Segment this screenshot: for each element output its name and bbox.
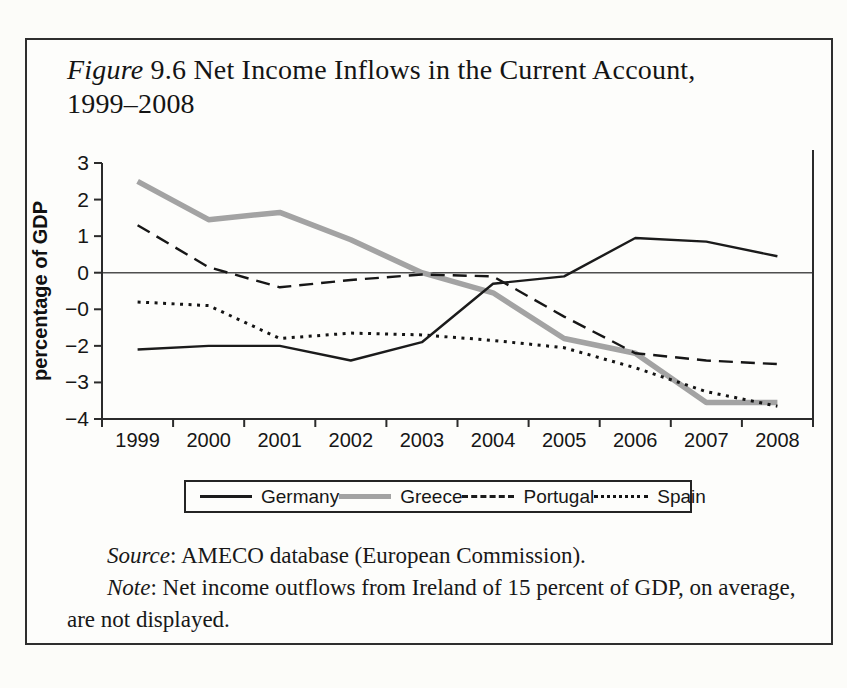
svg-text:−3: −3 [65, 370, 89, 393]
svg-text:−2: −2 [65, 334, 89, 357]
svg-text:−4: −4 [65, 407, 89, 430]
svg-text:2000: 2000 [186, 429, 231, 451]
svg-text:2008: 2008 [755, 429, 800, 451]
svg-text:2002: 2002 [329, 429, 374, 451]
svg-text:−0: −0 [65, 297, 89, 320]
svg-text:2001: 2001 [258, 429, 303, 451]
svg-text:1: 1 [77, 224, 89, 247]
chart-canvas: 3210−0−2−3−41999200020012002200320042005… [0, 0, 847, 688]
svg-text:2003: 2003 [400, 429, 445, 451]
svg-text:2005: 2005 [542, 429, 587, 451]
svg-text:0: 0 [77, 261, 89, 284]
svg-text:2004: 2004 [471, 429, 516, 451]
svg-text:percentage of GDP: percentage of GDP [29, 201, 51, 381]
svg-text:3: 3 [77, 151, 89, 174]
svg-text:2007: 2007 [684, 429, 729, 451]
svg-text:2: 2 [77, 188, 89, 211]
svg-text:1999: 1999 [115, 429, 160, 451]
book-page: Figure 9.6 Net Income Inflows in the Cur… [0, 0, 847, 688]
svg-text:2006: 2006 [613, 429, 658, 451]
